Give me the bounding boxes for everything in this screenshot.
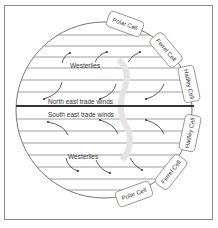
westerlies-south-label: Westerlies: [68, 153, 99, 160]
globe: [0, 22, 218, 198]
westerlies-north-label: Westerlies: [70, 62, 101, 69]
ne-trade-winds-label: North east trade winds: [48, 98, 114, 105]
circulation-diagram: Westerlies North east trade winds South …: [0, 0, 218, 228]
se-trade-winds-label: South east trade winds: [48, 111, 115, 118]
